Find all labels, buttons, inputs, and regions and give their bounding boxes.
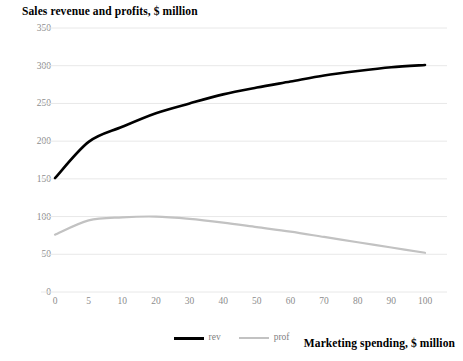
chart-title: Sales revenue and profits, $ million xyxy=(22,5,198,17)
legend-label-rev: rev xyxy=(209,333,221,343)
series-line-prof xyxy=(55,216,425,252)
chart-container: Sales revenue and profits, $ million 050… xyxy=(0,0,463,361)
legend-swatch-prof xyxy=(239,337,269,339)
legend-swatch-rev xyxy=(174,337,204,340)
series-lines xyxy=(55,28,425,292)
series-line-rev xyxy=(55,65,425,178)
legend-label-prof: prof xyxy=(274,333,290,343)
x-axis-tick-labels: 05102030405060708090100 xyxy=(55,296,425,312)
legend-item-prof[interactable]: prof xyxy=(239,333,290,343)
x-axis-title: Marketing spending, $ million xyxy=(304,337,455,349)
plot-area xyxy=(55,28,425,292)
y-axis-tick-labels: 050100150200250300350 xyxy=(0,28,51,292)
x-tick-label: 100 xyxy=(405,296,445,306)
legend-item-rev[interactable]: rev xyxy=(174,333,221,343)
